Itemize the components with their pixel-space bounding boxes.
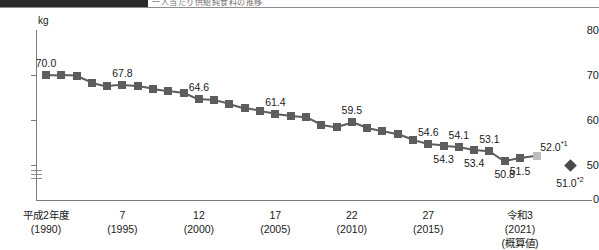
data-point-marker[interactable] bbox=[363, 124, 371, 132]
data-point-label: 64.6 bbox=[189, 82, 209, 93]
data-point-label: 67.8 bbox=[112, 68, 132, 79]
x-tick-label: 12(2000) bbox=[184, 208, 214, 236]
data-point-marker[interactable] bbox=[424, 140, 432, 148]
data-point-label: 54.1 bbox=[449, 130, 469, 141]
x-tick-label-era: 7 bbox=[120, 209, 126, 221]
estimate-square-label: 52.0*1 bbox=[540, 140, 568, 152]
cropped-header-strip: 一人当たり供給純食料の推移 bbox=[0, 0, 599, 8]
data-point-marker[interactable] bbox=[501, 157, 509, 165]
data-point-marker[interactable] bbox=[378, 127, 386, 135]
x-tick-label: 7(1995) bbox=[107, 208, 137, 236]
x-tick-label: 平成2年度(1990) bbox=[23, 208, 69, 236]
data-point-marker[interactable] bbox=[73, 72, 81, 80]
data-point-marker[interactable] bbox=[409, 136, 417, 144]
data-point-marker[interactable] bbox=[103, 82, 111, 90]
data-point-marker[interactable] bbox=[57, 71, 65, 79]
data-point-label: 51.5 bbox=[510, 166, 530, 177]
x-tick-label-era: 27 bbox=[422, 209, 434, 221]
data-point-marker[interactable] bbox=[394, 130, 402, 138]
data-point-label: 54.6 bbox=[418, 127, 438, 138]
data-point-marker[interactable] bbox=[287, 112, 295, 120]
data-point-marker[interactable] bbox=[241, 104, 249, 112]
data-point-marker[interactable] bbox=[134, 82, 142, 90]
x-tick-label-year: (2010) bbox=[337, 222, 367, 236]
data-point-marker[interactable] bbox=[333, 123, 341, 131]
data-point-marker[interactable] bbox=[455, 143, 463, 151]
data-point-label: 53.4 bbox=[464, 158, 484, 169]
x-tick-label: 27(2015) bbox=[413, 208, 443, 236]
data-point-marker[interactable] bbox=[42, 71, 50, 79]
data-point-marker[interactable] bbox=[149, 85, 157, 93]
data-point-marker[interactable] bbox=[271, 110, 279, 118]
header-partial-text: 一人当たり供給純食料の推移 bbox=[152, 0, 263, 7]
data-point-marker[interactable] bbox=[485, 147, 493, 155]
data-point-label: 61.4 bbox=[265, 97, 285, 108]
line-chart: kg 807060500 70.067.864.661.459.554.654.… bbox=[0, 8, 599, 250]
x-tick-label-year: (2015) bbox=[413, 222, 443, 236]
x-tick-label-era: 17 bbox=[269, 209, 281, 221]
data-point-marker[interactable] bbox=[256, 107, 264, 115]
x-tick-label-year: (2005) bbox=[260, 222, 290, 236]
x-tick-label: 22(2010) bbox=[337, 208, 367, 236]
x-tick-label-era: 平成2年度 bbox=[23, 209, 69, 221]
data-point-marker[interactable] bbox=[195, 95, 203, 103]
data-point-marker[interactable] bbox=[210, 96, 218, 104]
estimate-square-marker[interactable] bbox=[533, 152, 541, 160]
x-tick-label-year: (1995) bbox=[107, 222, 137, 236]
data-point-marker[interactable] bbox=[440, 142, 448, 150]
data-point-marker[interactable] bbox=[88, 79, 96, 87]
x-tick-label-year: (1990) bbox=[23, 222, 69, 236]
x-tick-label-note: (概算値) bbox=[502, 236, 539, 250]
data-point-marker[interactable] bbox=[164, 87, 172, 95]
x-tick-label-era: 22 bbox=[346, 209, 358, 221]
data-point-label: 54.3 bbox=[433, 154, 453, 165]
data-point-marker[interactable] bbox=[225, 100, 233, 108]
data-point-label: 70.0 bbox=[36, 58, 56, 69]
data-point-marker[interactable] bbox=[118, 81, 126, 89]
data-point-marker[interactable] bbox=[180, 89, 188, 97]
header-black-block bbox=[0, 0, 148, 7]
x-tick-label-year: (2000) bbox=[184, 222, 214, 236]
data-point-marker[interactable] bbox=[317, 121, 325, 129]
data-point-label: 59.5 bbox=[342, 105, 362, 116]
estimate-diamond-marker[interactable] bbox=[564, 159, 577, 172]
estimate-diamond-label: 51.0*2 bbox=[556, 176, 584, 188]
data-point-marker[interactable] bbox=[302, 113, 310, 121]
x-tick-label-era: 12 bbox=[193, 209, 205, 221]
x-tick-label: 令和3(2021)(概算値) bbox=[502, 208, 539, 250]
data-point-label: 53.1 bbox=[479, 134, 499, 145]
x-tick-label-era: 令和3 bbox=[507, 209, 533, 221]
data-point-marker[interactable] bbox=[348, 118, 356, 126]
data-point-marker[interactable] bbox=[470, 146, 478, 154]
x-tick-label: 17(2005) bbox=[260, 208, 290, 236]
x-tick-label-year: (2021) bbox=[502, 222, 539, 236]
